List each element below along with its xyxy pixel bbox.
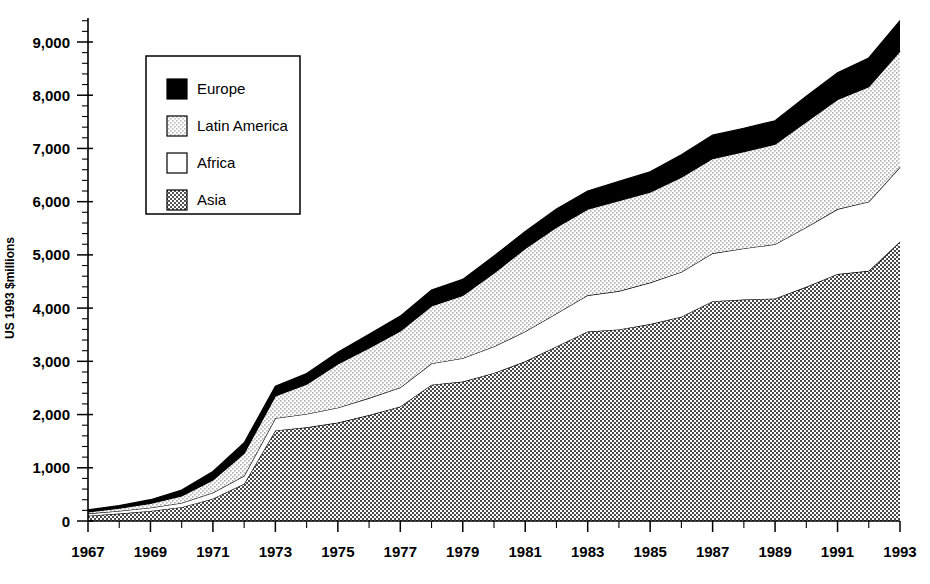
- x-tick-label: 1969: [134, 543, 167, 560]
- x-tick-label: 1975: [321, 543, 354, 560]
- y-tick-label: 8,000: [32, 87, 70, 104]
- x-tick-label: 1993: [883, 543, 916, 560]
- y-tick-label: 7,000: [32, 140, 70, 157]
- y-tick-label: 3,000: [32, 353, 70, 370]
- legend-swatch-europe: [167, 79, 187, 99]
- legend-label-africa: Africa: [197, 154, 236, 171]
- legend-swatch-latin-america: [167, 116, 187, 136]
- x-tick-label: 1985: [633, 543, 666, 560]
- y-tick-label: 6,000: [32, 193, 70, 210]
- legend-label-europe: Europe: [197, 80, 245, 97]
- y-tick-label: 1,000: [32, 459, 70, 476]
- y-tick-label: 2,000: [32, 406, 70, 423]
- y-tick-label: 4,000: [32, 300, 70, 317]
- y-tick-label: 5,000: [32, 246, 70, 263]
- y-axis-title: US 1993 $millions: [3, 237, 17, 339]
- x-tick-label: 1983: [571, 543, 604, 560]
- x-tick-label: 1967: [71, 543, 104, 560]
- legend-swatch-africa: [167, 153, 187, 173]
- x-tick-label: 1991: [821, 543, 854, 560]
- x-tick-label: 1973: [259, 543, 292, 560]
- chart-root: 01,0002,0003,0004,0005,0006,0007,0008,00…: [0, 0, 930, 584]
- chart-legend: EuropeLatin AmericaAfricaAsia: [146, 56, 300, 214]
- x-tick-label: 1971: [196, 543, 229, 560]
- legend-label-latin-america: Latin America: [197, 117, 289, 134]
- x-tick-label: 1981: [509, 543, 542, 560]
- x-tick-label: 1979: [446, 543, 479, 560]
- stacked-area-chart: 01,0002,0003,0004,0005,0006,0007,0008,00…: [0, 0, 930, 584]
- x-tick-label: 1989: [758, 543, 791, 560]
- y-tick-label: 9,000: [32, 34, 70, 51]
- x-tick-label: 1987: [696, 543, 729, 560]
- y-tick-label: 0: [62, 513, 70, 530]
- x-tick-label: 1977: [384, 543, 417, 560]
- legend-label-asia: Asia: [197, 191, 227, 208]
- legend-swatch-asia: [167, 190, 187, 210]
